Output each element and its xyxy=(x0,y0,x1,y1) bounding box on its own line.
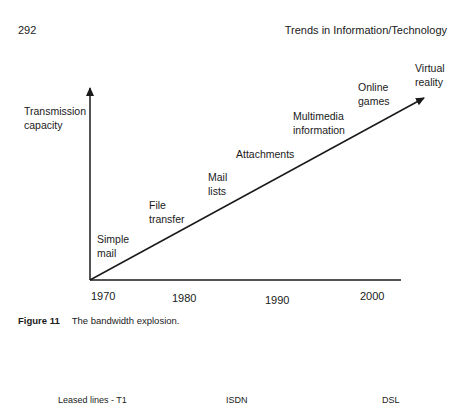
bottom-label-dsl: DSL xyxy=(382,395,400,405)
x-tick-1990: 1990 xyxy=(265,294,289,306)
growth-arrow xyxy=(90,98,424,280)
milestone-line: File xyxy=(149,198,185,212)
y-axis-label-line: capacity xyxy=(24,118,86,132)
bottom-label-leased-lines: Leased lines - T1 xyxy=(58,395,127,405)
milestone-line: Multimedia xyxy=(293,109,345,123)
x-tick-1970: 1970 xyxy=(91,290,115,302)
x-tick-1980: 1980 xyxy=(172,292,196,304)
milestone-simple-mail: Simple mail xyxy=(97,232,129,260)
bottom-label-isdn: ISDN xyxy=(226,395,248,405)
bandwidth-diagram xyxy=(0,0,469,409)
milestone-line: Attachments xyxy=(236,147,294,161)
milestone-online-games: Online games xyxy=(358,80,390,108)
milestone-mail-lists: Mail lists xyxy=(208,170,227,198)
milestone-line: mail xyxy=(97,246,129,260)
milestone-line: Virtual xyxy=(415,61,445,75)
milestone-multimedia-information: Multimedia information xyxy=(293,109,345,137)
milestone-line: games xyxy=(358,94,390,108)
milestone-virtual-reality: Virtual reality xyxy=(415,61,445,89)
milestone-attachments: Attachments xyxy=(236,147,294,161)
milestone-line: Online xyxy=(358,80,390,94)
y-axis-label-line: Transmission xyxy=(24,104,86,118)
milestone-line: information xyxy=(293,123,345,137)
figure-caption: Figure 11The bandwidth explosion. xyxy=(18,315,179,326)
milestone-line: transfer xyxy=(149,212,185,226)
milestone-file-transfer: File transfer xyxy=(149,198,185,226)
milestone-line: Simple xyxy=(97,232,129,246)
x-tick-2000: 2000 xyxy=(360,290,384,302)
figure-caption-text: The bandwidth explosion. xyxy=(72,315,180,326)
milestone-line: Mail xyxy=(208,170,227,184)
figure-label: Figure 11 xyxy=(18,315,60,326)
milestone-line: reality xyxy=(415,75,445,89)
y-axis-label: Transmission capacity xyxy=(24,104,86,132)
milestone-line: lists xyxy=(208,184,227,198)
